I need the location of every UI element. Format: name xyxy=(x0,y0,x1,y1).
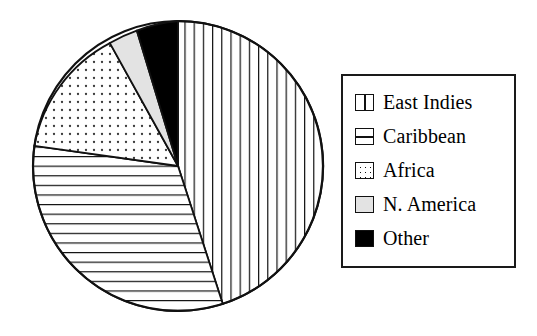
light-gray-swatch-icon xyxy=(355,196,374,213)
black-swatch-icon xyxy=(355,230,374,247)
legend-label-other: Other xyxy=(383,228,429,248)
vertical-lines-swatch-icon xyxy=(355,94,374,111)
legend-item-n-america: N. America xyxy=(355,187,514,221)
legend-item-caribbean: Caribbean xyxy=(355,119,514,153)
legend-item-other: Other xyxy=(355,221,514,255)
legend-item-east-indies: East Indies xyxy=(355,85,514,119)
dots-swatch-icon xyxy=(355,162,374,179)
legend-label-caribbean: Caribbean xyxy=(383,126,466,146)
horizontal-lines-swatch-icon xyxy=(355,128,374,145)
legend: East Indies Caribbean Africa N. America … xyxy=(341,74,516,268)
legend-label-n-america: N. America xyxy=(383,194,476,214)
legend-label-africa: Africa xyxy=(383,160,435,180)
pie-chart xyxy=(28,12,330,322)
legend-label-east-indies: East Indies xyxy=(383,92,472,112)
legend-item-africa: Africa xyxy=(355,153,514,187)
pie-chart-figure: East Indies Caribbean Africa N. America … xyxy=(0,0,537,336)
